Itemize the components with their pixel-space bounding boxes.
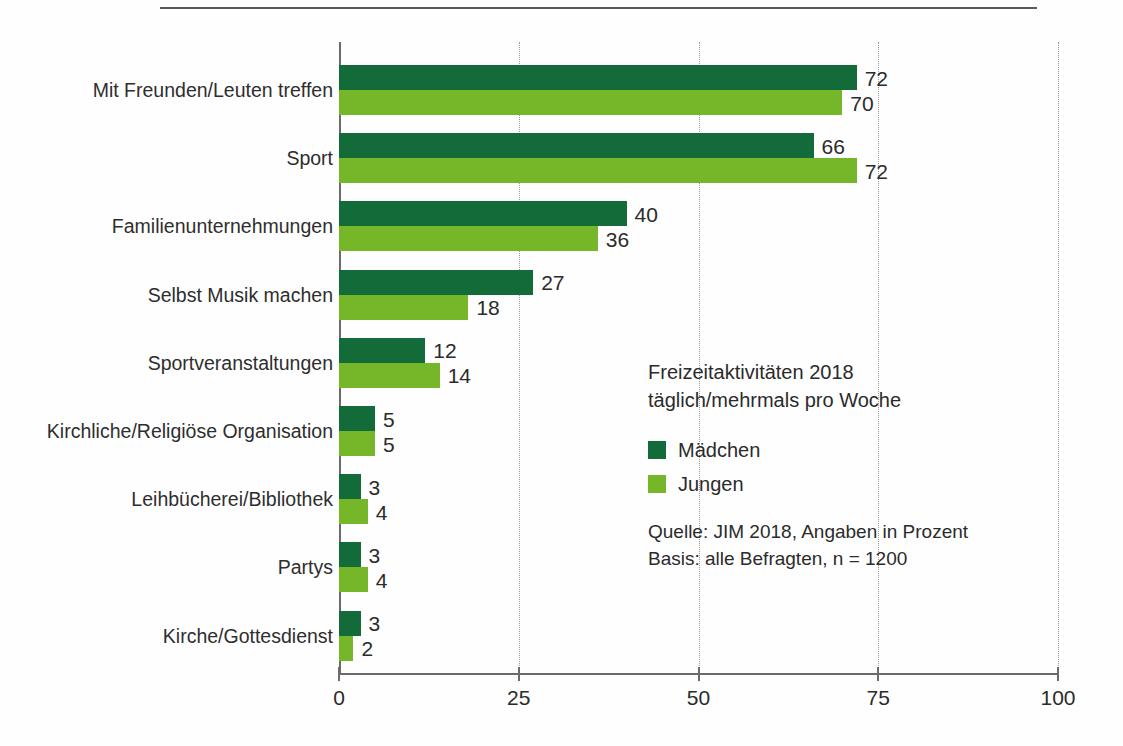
bar-boys-7 [339,567,368,592]
bar-value-girls-8: 3 [369,613,381,634]
bar-value-girls-6: 3 [369,477,381,498]
legend-and-caption: Freizeitaktivitäten 2018 täglich/mehrmal… [648,358,1068,573]
x-tick-50 [698,667,700,681]
category-label-3: Selbst Musik machen [148,286,333,306]
category-label-2: Familienunternehmungen [112,217,333,237]
x-tick-label-100: 100 [1040,686,1075,710]
bar-value-girls-0: 72 [865,68,888,89]
legend-title-line-2: täglich/mehrmals pro Woche [648,386,1068,414]
bar-girls-1 [339,133,814,158]
x-tick-25 [518,667,520,681]
bar-boys-1 [339,158,857,183]
category-label-5: Kirchliche/Religiöse Organisation [47,422,333,442]
legend-entries: MädchenJungen [648,439,1068,496]
bar-value-boys-8: 2 [361,638,373,659]
bar-girls-6 [339,474,361,499]
bar-boys-6 [339,499,368,524]
x-tick-label-0: 0 [333,686,345,710]
category-label-4: Sportveranstaltungen [148,354,333,374]
bar-girls-7 [339,542,361,567]
category-label-0: Mit Freunden/Leuten treffen [93,81,333,101]
bar-boys-4 [339,363,440,388]
bar-girls-5 [339,406,375,431]
bar-boys-5 [339,431,375,456]
bar-value-boys-1: 72 [865,161,888,182]
x-tick-100 [1057,667,1059,681]
category-label-6: Leihbücherei/Bibliothek [131,490,333,510]
x-tick-label-50: 50 [687,686,710,710]
bar-girls-0 [339,65,857,90]
bar-boys-3 [339,295,468,320]
bar-value-boys-0: 70 [850,93,873,114]
bar-boys-8 [339,636,353,661]
source-note: Quelle: JIM 2018, Angaben in Prozent Bas… [648,518,1068,573]
bar-value-boys-3: 18 [476,297,499,318]
x-tick-75 [877,667,879,681]
source-line-1: Quelle: JIM 2018, Angaben in Prozent [648,518,1068,546]
bar-girls-8 [339,611,361,636]
bar-value-boys-6: 4 [376,502,388,523]
bar-boys-0 [339,90,842,115]
x-tick-0 [338,667,340,681]
category-label-1: Sport [286,149,333,169]
bar-value-boys-7: 4 [376,570,388,591]
bar-value-boys-2: 36 [606,229,629,250]
bar-girls-2 [339,201,627,226]
chart-figure: 0255075100 7270667240362718121455343432 … [0,0,1123,746]
bar-boys-2 [339,226,598,251]
bar-value-girls-7: 3 [369,545,381,566]
category-label-8: Kirche/Gottesdienst [163,627,333,647]
bar-girls-4 [339,338,425,363]
legend-swatch-icon-1 [648,475,666,493]
x-tick-label-25: 25 [507,686,530,710]
bar-girls-3 [339,270,533,295]
legend-row-1[interactable]: Jungen [648,473,1068,496]
bar-value-girls-3: 27 [541,272,564,293]
category-label-7: Partys [278,558,333,578]
legend-label-1: Jungen [678,473,744,496]
bar-value-girls-1: 66 [822,136,845,157]
legend-title-line-1: Freizeitaktivitäten 2018 [648,358,1068,386]
bar-value-girls-2: 40 [635,204,658,225]
bar-value-girls-5: 5 [383,409,395,430]
legend-label-0: Mädchen [678,439,760,462]
bar-value-girls-4: 12 [433,340,456,361]
bar-value-boys-4: 14 [448,365,471,386]
legend-swatch-icon-0 [648,441,666,459]
legend-row-0[interactable]: Mädchen [648,439,1068,462]
source-line-2: Basis: alle Befragten, n = 1200 [648,545,1068,573]
x-tick-label-75: 75 [867,686,890,710]
bar-value-boys-5: 5 [383,434,395,455]
